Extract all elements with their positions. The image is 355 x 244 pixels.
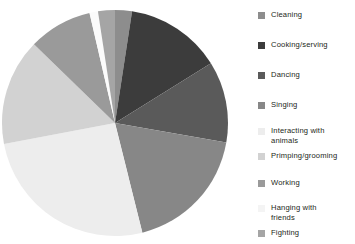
legend-swatch-icon <box>258 102 265 109</box>
legend-item-label: Working <box>271 178 300 188</box>
legend-swatch-icon <box>258 12 265 19</box>
legend-swatch-icon <box>258 72 265 79</box>
legend-item[interactable]: Hanging with friends <box>258 203 355 222</box>
legend-item-label: Cooking/serving <box>271 40 328 50</box>
legend-swatch-icon <box>258 180 265 187</box>
legend-swatch-icon <box>258 128 265 135</box>
legend-swatch-icon <box>258 42 265 49</box>
legend-item[interactable]: Singing <box>258 100 355 110</box>
legend-item-label: Dancing <box>271 70 300 80</box>
legend-item-label: Fighting <box>271 228 299 238</box>
legend-item-label: Primping/grooming <box>271 151 337 161</box>
pie-svg <box>0 0 232 244</box>
pie-slice-group <box>2 10 228 236</box>
legend-item[interactable]: Cooking/serving <box>258 40 355 50</box>
legend-item[interactable]: Primping/grooming <box>258 151 355 161</box>
legend-item[interactable]: Fighting <box>258 228 355 238</box>
pie-chart-figure: CleaningCooking/servingDancingSingingInt… <box>0 0 355 244</box>
legend-item[interactable]: Working <box>258 178 355 188</box>
chart-legend: CleaningCooking/servingDancingSingingInt… <box>258 0 355 244</box>
legend-item-label: Interacting with animals <box>271 126 325 145</box>
legend-swatch-icon <box>258 230 265 237</box>
legend-swatch-icon <box>258 153 265 160</box>
legend-item[interactable]: Interacting with animals <box>258 126 355 145</box>
legend-item[interactable]: Dancing <box>258 70 355 80</box>
legend-item[interactable]: Cleaning <box>258 10 355 20</box>
legend-item-label: Cleaning <box>271 10 302 20</box>
legend-item-label: Hanging with friends <box>271 203 317 222</box>
pie-plot-area <box>0 0 232 244</box>
legend-swatch-icon <box>258 205 265 212</box>
legend-item-label: Singing <box>271 100 297 110</box>
